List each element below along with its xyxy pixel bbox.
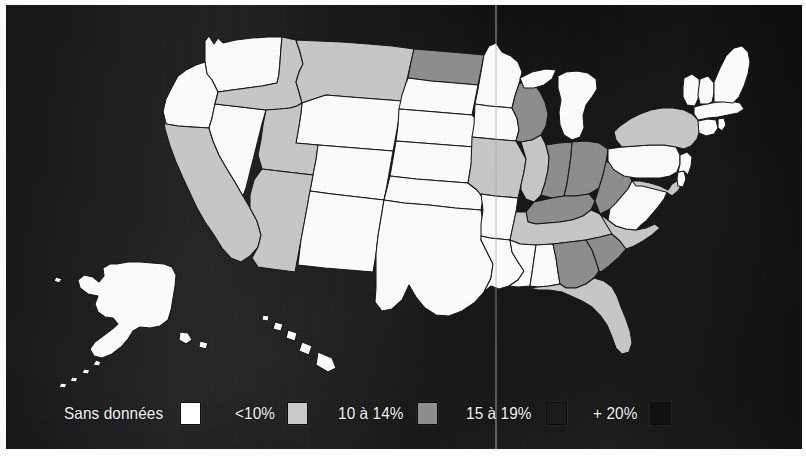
- page-margin-right: [802, 0, 806, 457]
- state-KS: [390, 141, 474, 183]
- state-HI: [262, 315, 336, 372]
- page-margin-left: [0, 0, 6, 457]
- legend-label-lt-10: <10%: [235, 404, 275, 423]
- state-CT: [698, 119, 718, 136]
- state-WY: [296, 95, 402, 151]
- state-IA: [472, 104, 519, 141]
- state-NH: [698, 76, 714, 104]
- state-NJ: [678, 152, 692, 175]
- state-AK-aleutians: [59, 360, 101, 388]
- choropleth-figure: Sans données <10% 10 à 14% 15 à 19% + 20…: [0, 0, 806, 457]
- state-FL: [530, 278, 632, 354]
- legend-item-10-14: 10 à 14%: [338, 402, 439, 425]
- legend-item-plus-20: + 20%: [593, 402, 671, 425]
- map-legend: Sans données <10% 10 à 14% 15 à 19% + 20…: [0, 392, 806, 434]
- state-WA: [205, 36, 282, 92]
- legend-label-10-14: 10 à 14%: [338, 404, 404, 423]
- page-margin-top: [0, 0, 806, 5]
- state-NY: [614, 108, 700, 149]
- legend-swatch-10-14: [417, 402, 438, 425]
- legend-item-15-19: 15 à 19%: [466, 402, 567, 425]
- state-TX: [375, 200, 493, 316]
- state-RI: [718, 118, 726, 131]
- state-DE: [677, 171, 686, 187]
- state-NM: [298, 191, 384, 272]
- state-PA: [608, 145, 680, 178]
- legend-swatch-plus-20: [650, 402, 671, 425]
- legend-label-no-data: Sans données: [64, 404, 163, 423]
- legend-label-plus-20: + 20%: [593, 404, 637, 423]
- legend-label-15-19: 15 à 19%: [466, 404, 532, 423]
- state-CO: [310, 145, 393, 200]
- legend-swatch-lt-10: [287, 402, 308, 425]
- legend-item-lt-10: <10%: [235, 402, 308, 425]
- legend-swatch-no-data: [180, 402, 201, 425]
- page-margin-bottom: [0, 449, 806, 457]
- legend-item-no-data: Sans données: [64, 402, 201, 425]
- state-MO: [468, 137, 526, 198]
- state-NE: [396, 109, 482, 147]
- legend-swatch-15-19: [546, 402, 567, 425]
- state-AK: [78, 262, 176, 358]
- state-VT: [683, 74, 700, 106]
- states-layer: [54, 36, 750, 388]
- us-states-map: [0, 0, 806, 457]
- state-ME: [714, 46, 750, 103]
- state-MT: [296, 40, 414, 103]
